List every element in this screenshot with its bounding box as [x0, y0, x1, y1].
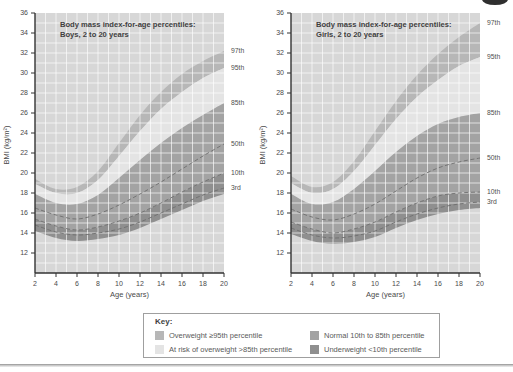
key-item-label: Overweight ≥95th percentile	[169, 331, 262, 340]
x-tick-label: 20	[220, 280, 228, 287]
key-title: Key:	[155, 317, 433, 326]
y-tick-label: 22	[276, 149, 284, 156]
x-tick-label: 18	[455, 280, 463, 287]
percentile-label-10th: 10th	[487, 188, 500, 195]
bmi-percentile-figure: 1214161820222426283032343624681012141618…	[0, 0, 513, 302]
percentile-label-97th: 97th	[231, 47, 244, 54]
y-tick-label: 14	[20, 229, 28, 236]
chart-subtitle: Girls, 2 to 20 years	[316, 30, 384, 39]
x-tick-label: 2	[289, 280, 293, 287]
key-item-at-risk: At risk of overweight >85th percentile	[155, 342, 310, 356]
y-tick-label: 30	[276, 69, 284, 76]
percentile-label-10th: 10th	[231, 169, 244, 176]
y-tick-label: 24	[20, 129, 28, 136]
normal-swatch	[310, 331, 319, 340]
chart-subtitle: Boys, 2 to 20 years	[60, 30, 129, 39]
key-item-label: Normal 10th to 85th percentile	[324, 331, 424, 340]
legend-key: Key: Overweight ≥95th percentile At risk…	[143, 313, 440, 358]
y-axis-label: BMI (kg/m²)	[2, 125, 11, 165]
key-item-underweight: Underweight <10th percentile	[310, 342, 433, 356]
key-grid: Overweight ≥95th percentile At risk of o…	[155, 328, 433, 356]
x-tick-label: 12	[136, 280, 144, 287]
x-axis-label: Age (years)	[366, 290, 405, 299]
y-tick-label: 22	[20, 149, 28, 156]
y-tick-label: 34	[276, 29, 284, 36]
chart-title: Body mass index-for-age percentiles:	[316, 20, 451, 29]
overweight-swatch	[155, 331, 164, 340]
y-tick-label: 28	[276, 89, 284, 96]
chart-title: Body mass index-for-age percentiles:	[60, 20, 195, 29]
key-item-normal: Normal 10th to 85th percentile	[310, 328, 433, 342]
x-tick-label: 4	[54, 280, 58, 287]
y-tick-label: 18	[20, 189, 28, 196]
x-tick-label: 14	[413, 280, 421, 287]
x-tick-label: 2	[33, 280, 37, 287]
bottom-divider	[0, 364, 513, 367]
x-tick-label: 4	[310, 280, 314, 287]
y-tick-label: 36	[20, 9, 28, 16]
y-tick-label: 14	[276, 229, 284, 236]
x-tick-label: 6	[331, 280, 335, 287]
percentile-label-95th: 95th	[487, 53, 500, 60]
y-tick-label: 28	[20, 89, 28, 96]
percentile-label-50th: 50th	[487, 154, 500, 161]
y-tick-label: 12	[20, 249, 28, 256]
y-tick-label: 24	[276, 129, 284, 136]
x-tick-label: 8	[96, 280, 100, 287]
x-axis-label: Age (years)	[110, 290, 149, 299]
girls-chart-svg: 1214161820222426283032343624681012141618…	[256, 0, 513, 302]
x-tick-label: 12	[392, 280, 400, 287]
percentile-label-3rd: 3rd	[231, 184, 241, 191]
boys-chart-svg: 1214161820222426283032343624681012141618…	[0, 0, 256, 302]
x-tick-label: 14	[157, 280, 165, 287]
percentile-label-3rd: 3rd	[487, 198, 497, 205]
page: 1214161820222426283032343624681012141618…	[0, 0, 513, 372]
underweight-swatch	[310, 345, 319, 354]
y-tick-label: 26	[276, 109, 284, 116]
y-tick-label: 16	[20, 209, 28, 216]
y-tick-label: 32	[276, 49, 284, 56]
y-tick-label: 12	[276, 249, 284, 256]
percentile-label-50th: 50th	[231, 140, 244, 147]
percentile-label-85th: 85th	[487, 109, 500, 116]
x-tick-label: 10	[115, 280, 123, 287]
y-tick-label: 32	[20, 49, 28, 56]
y-tick-label: 26	[20, 109, 28, 116]
y-tick-label: 20	[276, 169, 284, 176]
y-axis-label: BMI (kg/m²)	[258, 125, 267, 165]
y-tick-label: 16	[276, 209, 284, 216]
y-tick-label: 30	[20, 69, 28, 76]
at-risk-swatch	[155, 345, 164, 354]
percentile-label-97th: 97th	[487, 19, 500, 26]
percentile-label-85th: 85th	[231, 99, 244, 106]
x-tick-label: 16	[178, 280, 186, 287]
y-tick-label: 20	[20, 169, 28, 176]
y-tick-label: 34	[20, 29, 28, 36]
x-tick-label: 18	[199, 280, 207, 287]
y-tick-label: 36	[276, 9, 284, 16]
x-tick-label: 16	[434, 280, 442, 287]
key-item-label: Underweight <10th percentile	[324, 345, 422, 354]
x-tick-label: 10	[371, 280, 379, 287]
key-item-label: At risk of overweight >85th percentile	[169, 345, 292, 354]
y-tick-label: 18	[276, 189, 284, 196]
key-item-overweight: Overweight ≥95th percentile	[155, 328, 310, 342]
x-tick-label: 8	[352, 280, 356, 287]
percentile-label-95th: 95th	[231, 64, 244, 71]
x-tick-label: 20	[476, 280, 484, 287]
x-tick-label: 6	[75, 280, 79, 287]
